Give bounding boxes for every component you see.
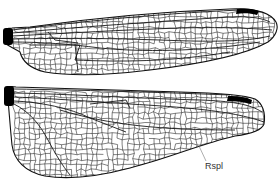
rspl-leader-line — [199, 146, 206, 161]
rspl-label: Rspl — [205, 162, 223, 171]
hindwing — [4, 86, 265, 182]
wing-venation-figure — [0, 0, 280, 190]
forewing — [3, 9, 277, 76]
forewing-base — [3, 28, 13, 45]
hindwing-base — [4, 86, 14, 106]
